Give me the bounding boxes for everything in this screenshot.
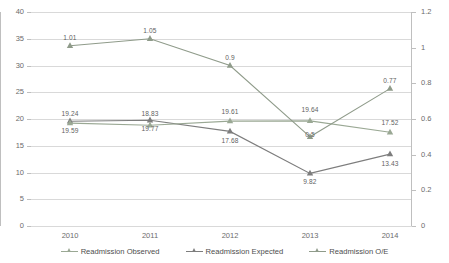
data-label-observed: 17.52 bbox=[372, 119, 408, 126]
data-label-oe: 0.9 bbox=[212, 54, 248, 61]
data-label-expected: 9.82 bbox=[292, 178, 328, 185]
legend-item-readmission-oe[interactable]: Readmission O/E bbox=[309, 247, 388, 256]
readmission-line-chart: 40 35 30 25 20 15 10 5 0 1.2 1 0.8 0.6 0… bbox=[0, 0, 449, 263]
legend-item-readmission-observed[interactable]: Readmission Observed bbox=[61, 247, 160, 256]
data-label-expected: 19.59 bbox=[52, 127, 88, 134]
data-label-observed: 18.83 bbox=[132, 110, 168, 117]
legend-label: Readmission O/E bbox=[329, 247, 388, 256]
data-label-observed: 19.24 bbox=[52, 110, 88, 117]
data-point-marker bbox=[147, 117, 153, 123]
data-label-observed: 19.61 bbox=[212, 108, 248, 115]
legend-label: Readmission Observed bbox=[81, 247, 160, 256]
legend-item-readmission-expected[interactable]: Readmission Expected bbox=[186, 247, 284, 256]
data-label-oe: 1.05 bbox=[132, 27, 168, 34]
data-label-oe: 1.01 bbox=[52, 34, 88, 41]
data-point-marker bbox=[307, 117, 313, 123]
data-label-expected: 19.77 bbox=[132, 125, 168, 132]
legend-marker-triangle-icon bbox=[186, 247, 203, 255]
data-point-marker bbox=[147, 35, 153, 41]
data-label-oe: 0.77 bbox=[372, 77, 408, 84]
data-label-expected: 17.68 bbox=[212, 137, 248, 144]
legend-label: Readmission Expected bbox=[206, 247, 284, 256]
data-label-expected: 13.43 bbox=[372, 160, 408, 167]
data-point-marker bbox=[227, 118, 233, 124]
legend-marker-triangle-icon bbox=[309, 247, 326, 255]
data-label-oe: 0.5 bbox=[292, 131, 328, 138]
chart-legend: Readmission Observed Readmission Expecte… bbox=[0, 243, 449, 259]
series-readmission-oe bbox=[67, 35, 393, 139]
data-label-observed: 19.64 bbox=[292, 106, 328, 113]
legend-marker-triangle-icon bbox=[61, 247, 78, 255]
data-point-marker bbox=[387, 151, 393, 157]
data-point-marker bbox=[387, 85, 393, 91]
